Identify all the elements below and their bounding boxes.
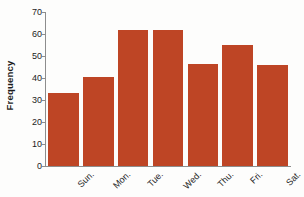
x-axis-tick-label: Tue.	[146, 170, 165, 189]
bar-slot	[255, 12, 290, 166]
bar-slot	[46, 12, 81, 166]
y-axis-title-text: Frequency	[5, 60, 16, 110]
bar[interactable]	[257, 65, 288, 166]
x-axis-tick-label: Thu.	[216, 170, 235, 189]
bar[interactable]	[118, 30, 149, 166]
x-axis-tick-label: Sun.	[77, 170, 96, 189]
y-axis-tick-label: 60	[18, 30, 42, 39]
y-axis-tick-label: 30	[18, 96, 42, 105]
bar-slot	[116, 12, 151, 166]
bar-chart: Frequency 010203040506070 Sun.Mon.Tue.We…	[0, 0, 304, 197]
y-axis-tick-label: 40	[18, 74, 42, 83]
y-axis-tick-label: 70	[18, 8, 42, 17]
y-axis-tick-labels: 010203040506070	[18, 0, 42, 197]
y-axis-tick-label: 10	[18, 140, 42, 149]
y-axis-tick-label: 0	[18, 162, 42, 171]
bar[interactable]	[222, 45, 253, 166]
x-axis-tick-label: Wed.	[182, 170, 203, 191]
bar[interactable]	[153, 30, 184, 166]
bar[interactable]	[188, 64, 219, 166]
bar-slot	[220, 12, 255, 166]
bar[interactable]	[83, 77, 114, 166]
bar-slot	[81, 12, 116, 166]
y-axis-tick-label: 50	[18, 52, 42, 61]
plot-area	[46, 12, 290, 166]
x-axis-tick-labels: Sun.Mon.Tue.Wed.Thu.Fri.Sat.	[46, 167, 290, 197]
y-axis-tick-label: 20	[18, 118, 42, 127]
y-axis-title: Frequency	[0, 0, 20, 170]
bar-slot	[151, 12, 186, 166]
x-axis-tick-label: Fri.	[249, 170, 265, 186]
bar-slot	[185, 12, 220, 166]
x-axis-tick-label: Mon.	[112, 170, 133, 191]
x-axis-tick-label: Sat.	[285, 170, 303, 188]
bar[interactable]	[48, 93, 79, 166]
